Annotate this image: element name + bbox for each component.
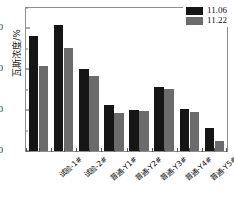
bar (114, 113, 124, 151)
bar (29, 36, 39, 151)
bar (154, 87, 164, 151)
x-tick-mark (189, 148, 190, 152)
y-minor-tick-mark (26, 89, 28, 90)
y-tick-label: 40 (0, 63, 3, 73)
x-tick-mark (51, 148, 52, 152)
y-minor-tick-mark (26, 8, 28, 9)
y-tick-label: 60 (0, 22, 3, 32)
bar (164, 89, 174, 151)
bar (190, 112, 200, 151)
x-tick-mark (114, 148, 115, 152)
bar-chart-figure: 瓦斯浓度/% 11.0611.22 0204060试验-1#试验-2#普通-Y1… (0, 0, 234, 207)
x-tick-label: 普通-Y2# (132, 153, 163, 183)
legend-swatch-icon (186, 7, 203, 15)
bar (104, 105, 114, 151)
legend-label: 11.22 (207, 16, 227, 25)
x-tick-mark (39, 148, 40, 152)
bar (39, 66, 49, 151)
y-axis-label: 瓦斯浓度/% (10, 14, 24, 92)
bar (205, 128, 215, 151)
legend-swatch-icon (186, 17, 203, 25)
x-tick-mark (226, 148, 227, 152)
bar (215, 141, 225, 151)
y-tick-label: 0 (0, 145, 3, 155)
y-minor-tick-mark (26, 130, 28, 131)
x-tick-label: 普通-Y4# (182, 153, 213, 183)
x-tick-mark (202, 148, 203, 152)
y-tick-mark (26, 28, 30, 29)
x-tick-label: 试验-1# (56, 153, 84, 180)
bar (64, 48, 74, 151)
y-minor-tick-mark (26, 48, 28, 49)
chart-legend: 11.0611.22 (183, 4, 230, 27)
x-tick-mark (26, 148, 27, 152)
y-tick-label: 20 (0, 104, 3, 114)
bar (54, 25, 64, 151)
x-tick-mark (139, 148, 140, 152)
bar (129, 110, 139, 151)
x-tick-mark (177, 148, 178, 152)
x-tick-label: 普通-Y5# (208, 153, 234, 183)
legend-item: 11.22 (186, 16, 227, 25)
legend-label: 11.06 (207, 6, 227, 15)
x-tick-mark (214, 148, 215, 152)
bar (89, 76, 99, 151)
legend-item: 11.06 (186, 6, 227, 15)
x-tick-label: 普通-Y3# (157, 153, 188, 183)
bar (180, 109, 190, 151)
x-tick-mark (164, 148, 165, 152)
x-tick-mark (152, 148, 153, 152)
x-tick-label: 普通-Y1# (107, 153, 138, 183)
x-tick-mark (101, 148, 102, 152)
bar (79, 69, 89, 151)
x-tick-mark (76, 148, 77, 152)
bar (139, 111, 149, 151)
x-tick-mark (64, 148, 65, 152)
plot-area (25, 7, 228, 152)
x-tick-mark (127, 148, 128, 152)
x-tick-label: 试验-2# (81, 153, 109, 180)
x-tick-mark (89, 148, 90, 152)
